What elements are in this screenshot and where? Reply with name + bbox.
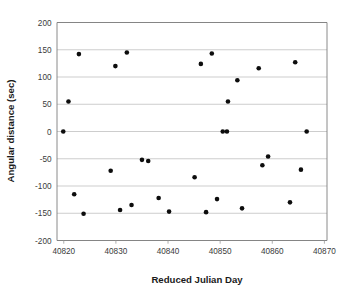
- x-tick-label: 40860: [261, 247, 284, 256]
- x-tick-label: 40870: [313, 247, 336, 256]
- y-tick-label: -100: [35, 182, 52, 191]
- data-point: [66, 99, 71, 104]
- y-tick-label: -150: [35, 209, 52, 218]
- chart-canvas: 408204083040840408504086040870 -200-150-…: [0, 0, 359, 295]
- x-tick-label: 40840: [157, 247, 180, 256]
- data-point: [293, 60, 298, 65]
- data-point: [61, 129, 66, 134]
- gridlines: [57, 23, 327, 241]
- data-point: [167, 209, 172, 214]
- data-point: [256, 66, 261, 71]
- y-axis-tick-labels: -200-150-100-50050100150200: [35, 19, 52, 246]
- data-point: [113, 64, 118, 69]
- data-point: [72, 192, 77, 197]
- y-tick-label: 50: [42, 100, 52, 109]
- x-tick-label: 40850: [209, 247, 232, 256]
- data-point: [288, 200, 293, 205]
- data-point: [118, 208, 123, 213]
- y-tick-label: -50: [40, 155, 52, 164]
- y-tick-label: 200: [38, 19, 52, 28]
- x-tick-label: 40830: [105, 247, 128, 256]
- y-tick-label: 0: [47, 128, 52, 137]
- data-point: [266, 154, 271, 159]
- data-point: [140, 158, 145, 163]
- data-point: [81, 212, 86, 217]
- data-point: [220, 129, 225, 134]
- y-axis-title: Angular distance (sec): [5, 80, 16, 183]
- y-tick-label: 100: [38, 73, 52, 82]
- data-point: [299, 167, 304, 172]
- x-axis-tick-marks: [64, 241, 325, 244]
- data-point: [225, 129, 230, 134]
- data-point: [125, 50, 130, 55]
- data-point: [77, 52, 82, 57]
- data-point: [156, 196, 161, 201]
- y-tick-label: 150: [38, 46, 52, 55]
- data-point: [146, 159, 151, 164]
- x-tick-label: 40820: [52, 247, 75, 256]
- data-point: [235, 78, 240, 83]
- data-point: [199, 62, 204, 67]
- data-point: [129, 203, 134, 208]
- data-point: [204, 210, 209, 215]
- data-point: [215, 197, 220, 202]
- x-axis-title: Reduced Julian Day: [151, 274, 243, 285]
- data-point: [192, 175, 197, 180]
- y-tick-label: -200: [35, 237, 52, 246]
- data-point: [240, 206, 245, 211]
- data-point: [260, 163, 265, 168]
- data-points: [61, 50, 309, 216]
- data-point: [226, 99, 231, 104]
- data-point: [210, 51, 215, 56]
- data-point: [304, 129, 309, 134]
- scatter-chart: 408204083040840408504086040870 -200-150-…: [0, 0, 359, 295]
- data-point: [108, 168, 113, 173]
- x-axis-tick-labels: 408204083040840408504086040870: [52, 247, 336, 256]
